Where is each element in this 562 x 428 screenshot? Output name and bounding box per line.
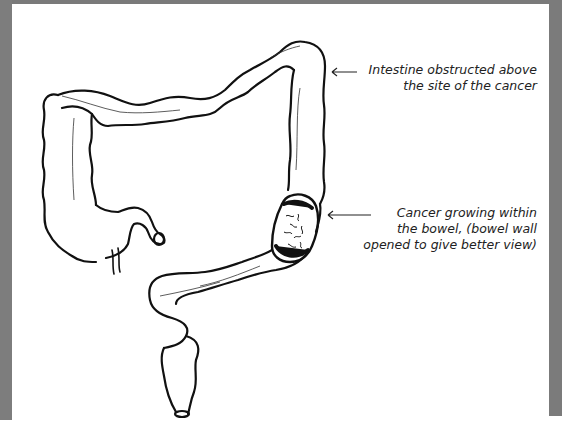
annotation-obstruction-line2: the site of the cancer	[361, 78, 537, 94]
annotation-obstruction-line1: Intestine obstructed above	[361, 62, 537, 78]
arrow-left-icon	[330, 67, 358, 77]
cecum-outline	[96, 205, 165, 258]
annotation-cancer: Cancer growing within the bowel, (bowel …	[356, 205, 537, 253]
annotation-cancer-line2: the bowel, (bowel wall	[356, 221, 537, 237]
annotation-cancer-line3: opened to give better view)	[356, 237, 537, 253]
ascending-colon-outline	[43, 94, 96, 262]
annotation-cancer-line1: Cancer growing within	[356, 205, 537, 221]
annotation-obstruction: Intestine obstructed above the site of t…	[361, 62, 537, 94]
